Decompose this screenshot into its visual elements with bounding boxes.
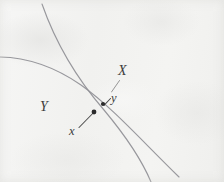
point-label-y: y [111, 92, 117, 105]
leader-line-point-x [79, 113, 93, 128]
curve-boundary-x [42, 4, 151, 182]
point-marker-y [101, 102, 105, 106]
point-marker-x [92, 110, 97, 115]
figure-canvas: X Y y x [0, 0, 224, 182]
region-label-y: Y [40, 100, 48, 114]
region-label-x: X [118, 64, 127, 78]
point-label-x: x [69, 125, 75, 138]
leader-line-point-y [104, 99, 110, 106]
